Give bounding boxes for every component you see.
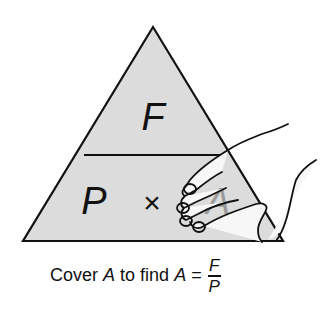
caption-middle: to find <box>120 265 169 286</box>
caption: Cover A to find A = F P <box>50 257 221 295</box>
caption-var-a-result: A <box>174 265 186 286</box>
symbol-p: P <box>81 180 107 222</box>
symbol-f: F <box>141 96 166 138</box>
caption-prefix: Cover <box>50 265 98 286</box>
caption-var-a: A <box>103 265 115 286</box>
multiply-operator: × <box>143 186 161 219</box>
fraction: F P <box>208 257 221 295</box>
fraction-numerator: F <box>209 257 219 274</box>
equals-sign: = <box>191 265 202 286</box>
fraction-denominator: P <box>209 278 220 295</box>
